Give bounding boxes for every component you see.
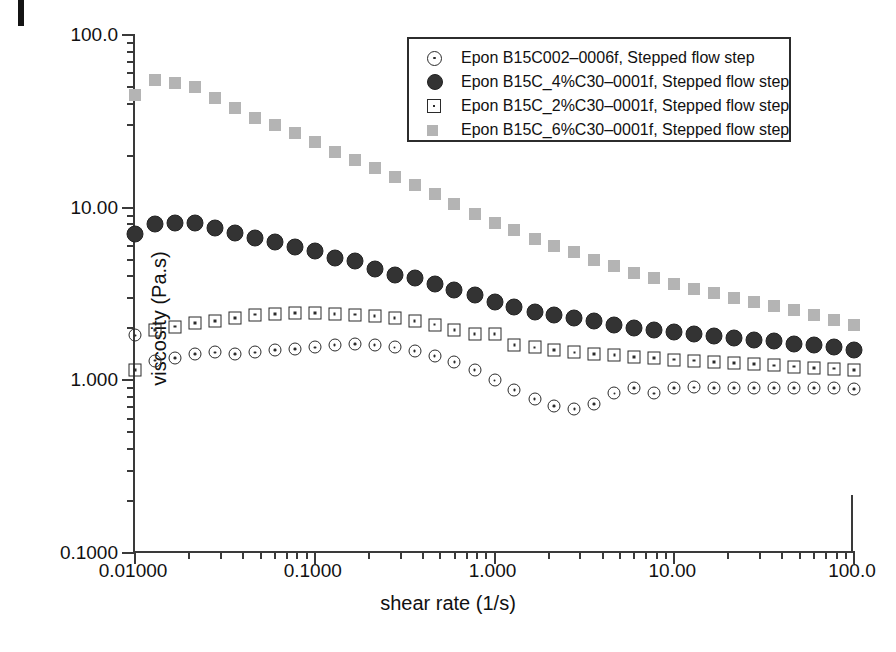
x-tick-minor	[602, 551, 604, 559]
data-point-series-2	[668, 353, 681, 366]
data-point-series-2	[708, 355, 721, 368]
x-tick-label: 100.0	[828, 560, 876, 582]
data-point-series-3	[369, 162, 381, 174]
data-point-series-0	[288, 342, 301, 355]
data-point-series-2	[408, 315, 421, 328]
y-tick-label: 10.00	[70, 197, 118, 219]
x-tick-minor	[845, 551, 847, 559]
x-tick-minor	[485, 551, 487, 559]
x-tick-minor	[466, 551, 468, 559]
data-point-series-3	[508, 224, 520, 236]
legend-filled-square-gray-icon	[427, 125, 438, 136]
y-tick-minor	[127, 275, 135, 277]
x-tick-label-row: 0.010000.10001.00010.00100.0	[133, 560, 852, 590]
data-point-series-2	[807, 361, 820, 374]
data-point-series-0	[588, 397, 601, 410]
data-point-series-2	[748, 358, 761, 371]
x-tick-minor	[645, 551, 647, 559]
data-point-series-2	[428, 318, 441, 331]
data-point-series-3	[209, 92, 221, 104]
data-point-series-1	[226, 225, 243, 242]
y-axis-title: viscosity (Pa.s)	[148, 149, 171, 489]
y-tick-minor	[127, 103, 135, 105]
data-point-series-0	[688, 381, 701, 394]
data-point-series-2	[288, 307, 301, 320]
data-point-series-0	[608, 387, 621, 400]
x-axis-title: shear rate (1/s)	[0, 592, 896, 615]
data-point-series-1	[426, 276, 443, 293]
data-point-series-0	[408, 344, 421, 357]
data-point-series-0	[668, 382, 681, 395]
x-tick-minor	[665, 551, 667, 559]
data-point-series-3	[688, 283, 700, 295]
x-tick-minor	[242, 551, 244, 559]
data-point-series-3	[788, 304, 800, 316]
x-tick-minor	[188, 551, 190, 559]
data-point-series-1	[326, 250, 343, 267]
data-point-series-2	[228, 311, 241, 324]
y-tick-minor	[127, 387, 135, 389]
x-tick-label: 1.000	[469, 560, 517, 582]
data-point-series-3	[828, 314, 840, 326]
data-point-series-3	[149, 74, 161, 86]
data-point-series-3	[548, 240, 560, 252]
y-tick-minor	[127, 215, 135, 217]
data-point-series-0	[528, 392, 541, 405]
data-point-series-2	[788, 360, 801, 373]
data-point-series-0	[268, 343, 281, 356]
data-point-series-1	[386, 266, 403, 283]
data-point-series-2	[248, 308, 261, 321]
legend-filled-circle-icon	[427, 74, 443, 90]
y-tick-minor	[127, 155, 135, 157]
data-point-series-1	[626, 320, 643, 337]
data-point-series-3	[768, 300, 780, 312]
data-point-series-2	[568, 346, 581, 359]
data-point-series-1	[486, 293, 503, 310]
data-point-series-3	[349, 154, 361, 166]
y-tick-minor	[127, 418, 135, 420]
data-point-series-3	[848, 319, 860, 331]
x-tick-minor	[579, 551, 581, 559]
data-point-series-2	[129, 363, 142, 376]
data-point-series-0	[428, 350, 441, 363]
y-tick-label-column: 100.010.001.0000.1000	[0, 35, 118, 553]
x-tick-minor	[813, 551, 815, 559]
data-point-series-2	[768, 359, 781, 372]
data-point-series-0	[708, 382, 721, 395]
y-tick-minor	[127, 86, 135, 88]
data-point-series-2	[148, 324, 161, 337]
data-point-series-2	[508, 339, 521, 352]
data-point-series-1	[146, 216, 163, 233]
data-point-series-1	[846, 341, 863, 358]
data-point-series-0	[508, 383, 521, 396]
data-point-series-1	[786, 335, 803, 352]
x-tick-minor	[656, 551, 658, 559]
data-point-series-0	[748, 382, 761, 395]
data-point-series-2	[448, 324, 461, 337]
page-edge-artifact	[18, 0, 24, 26]
data-point-series-1	[706, 328, 723, 345]
data-point-series-0	[807, 382, 820, 395]
legend-item-label: Epon B15C002–0006f, Stepped flow step	[461, 49, 755, 67]
data-point-series-0	[328, 339, 341, 352]
data-point-series-1	[586, 313, 603, 330]
legend-item-label: Epon B15C_6%C30–0001f, Stepped flow step	[461, 121, 789, 139]
data-point-series-0	[248, 346, 261, 359]
data-point-series-1	[206, 220, 223, 237]
legend-item-label: Epon B15C_4%C30–0001f, Stepped flow step	[461, 73, 789, 91]
data-point-series-3	[389, 171, 401, 183]
y-tick-major	[122, 207, 135, 209]
data-point-series-3	[748, 296, 760, 308]
x-tick-minor	[368, 551, 370, 559]
data-point-series-0	[848, 383, 861, 396]
data-point-series-2	[368, 310, 381, 323]
y-tick-minor	[127, 42, 135, 44]
data-point-series-0	[228, 348, 241, 361]
data-point-series-1	[266, 234, 283, 251]
data-point-series-1	[246, 229, 263, 246]
x-tick-minor	[799, 551, 801, 559]
legend-marker-icon	[427, 51, 453, 66]
data-point-series-1	[566, 309, 583, 326]
x-tick-minor	[454, 551, 456, 559]
y-tick-major	[122, 379, 135, 381]
